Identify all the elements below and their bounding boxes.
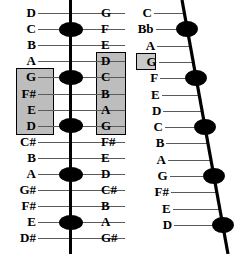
position-dot <box>59 22 83 37</box>
fret-line <box>162 95 198 96</box>
note-label-left: G# <box>0 183 36 196</box>
note-label: B <box>124 136 164 149</box>
position-dot <box>203 168 225 184</box>
fret-line <box>154 13 183 14</box>
note-label-right: G# <box>101 231 141 244</box>
note-label: A <box>115 39 155 52</box>
note-label: G <box>117 55 157 68</box>
position-dot <box>59 118 83 133</box>
fret-line <box>157 46 189 47</box>
position-dot <box>59 70 83 85</box>
note-label-left: B <box>0 38 36 51</box>
note-label-left: A <box>0 54 36 67</box>
fret-line <box>171 192 216 193</box>
note-label-left: D <box>0 119 36 132</box>
fret-line <box>166 143 207 144</box>
note-label: E <box>131 202 171 215</box>
note-label-left: F# <box>0 199 36 212</box>
position-dot <box>194 119 216 135</box>
position-dot <box>59 167 83 182</box>
position-dot <box>212 217 234 233</box>
fret-line <box>173 209 219 210</box>
note-label: C <box>123 120 163 133</box>
note-label-left: F# <box>0 87 36 100</box>
fret-line <box>159 62 193 63</box>
position-dot <box>59 215 83 230</box>
note-label: A <box>126 153 166 166</box>
note-label: Bb <box>114 22 154 35</box>
note-label-left: B <box>0 151 36 164</box>
note-label: F <box>118 71 158 84</box>
note-label-left: C <box>0 22 36 35</box>
note-label-left: G <box>0 70 36 83</box>
note-label: C <box>112 6 152 19</box>
position-dot <box>176 21 198 37</box>
position-dot <box>185 70 207 86</box>
note-label-left: D# <box>0 231 36 244</box>
note-label-left: E <box>0 103 36 116</box>
note-label-left: E <box>0 215 36 228</box>
note-label-left: C# <box>0 135 36 148</box>
note-label: F# <box>129 185 169 198</box>
note-label: D <box>121 104 161 117</box>
note-label-left: D <box>0 6 36 19</box>
fret-line <box>168 160 210 161</box>
note-label: D <box>132 218 172 231</box>
figure-canvas: DGCFBEADGCF#BEADGC#F#BEADG#C#F#BEAD#G# C… <box>0 0 251 254</box>
note-label: E <box>120 88 160 101</box>
note-label-left: A <box>0 167 36 180</box>
fret-line <box>163 111 201 112</box>
note-label: G <box>128 169 168 182</box>
